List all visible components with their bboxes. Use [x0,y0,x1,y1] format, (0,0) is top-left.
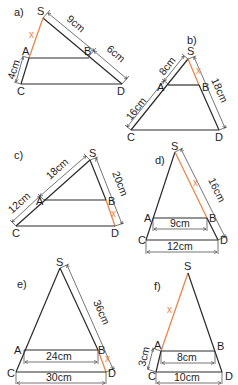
figure-a: a) S A B C D x 9cm 6cm 4cm [4,5,129,97]
unknown-x-label: x [167,304,172,315]
figure-label: a) [14,6,24,18]
unknown-x-label: x [196,65,201,76]
line-AC [156,351,161,372]
measure-SA: 8cm [156,54,178,77]
figure-f: f) S A B C D x 3cm 8cm 10cm [135,260,233,384]
line-AC [21,58,29,84]
segment-SB-unknown [175,152,207,218]
figure-d: d) S A B C D x 16cm 9cm 12cm [138,140,228,254]
line-SB [60,268,98,350]
measure-CD: 12cm [167,240,193,252]
point-B: B [209,212,216,224]
measure-AB: 9cm [170,217,190,229]
point-C: C [127,131,135,143]
point-A: A [36,195,44,207]
unknown-x-label: x [29,29,34,40]
measure-SD: 18cm [209,76,231,105]
point-B: B [202,81,209,93]
measure-AC: 12cm [5,189,32,215]
point-D: D [225,370,233,382]
figure-e: e) S A B C D x 36cm 24cm 30cm [7,256,116,384]
line-SB [90,160,106,200]
figure-label: f) [154,280,161,292]
point-C: C [7,367,15,379]
segment-SA-unknown [161,273,188,351]
figure-label: e) [17,278,27,290]
figure-label: c) [14,149,23,161]
point-S: S [56,256,63,268]
figure-b: b) S A B C D x 8cm 16cm 18cm [123,34,231,143]
point-D: D [220,234,228,246]
point-B: B [217,340,224,352]
point-A: A [22,45,30,57]
measure-BD: 6cm [105,42,128,64]
point-C: C [148,370,156,382]
point-D: D [117,85,125,97]
point-A: A [157,81,165,93]
point-B: B [84,45,91,57]
point-S: S [37,5,44,17]
point-S: S [184,260,191,272]
point-A: A [154,339,162,351]
measure-SD: 16cm [206,176,228,205]
measure-SB: 9cm [65,12,88,34]
point-D: D [108,367,116,379]
point-A: A [144,212,152,224]
measure-CD: 30cm [46,371,72,383]
point-C: C [12,227,20,239]
point-D: D [111,227,119,239]
point-S: S [171,140,178,152]
measure-AC: 4cm [4,58,22,81]
unknown-x-label: x [105,353,110,364]
figure-label: d) [155,154,165,166]
point-S: S [89,147,96,159]
point-A: A [14,344,22,356]
intercept-theorem-diagram: a) S A B C D x 9cm 6cm 4cm b) [0,0,238,385]
measure-AC: 16cm [123,94,148,122]
unknown-x-label: x [193,177,198,188]
measure-AB: 24cm [46,350,72,362]
measure-AB: 8cm [177,351,197,363]
measure-SD: 36cm [91,298,113,327]
measure-CD: 10cm [174,371,200,383]
unknown-x-label: x [111,208,116,219]
point-S: S [187,45,194,57]
point-D: D [215,131,223,143]
point-C: C [17,85,25,97]
point-B: B [108,195,115,207]
measure-SA: 18cm [43,155,70,181]
measure-SD: 20cm [110,169,131,198]
point-C: C [138,234,146,246]
figure-c: c) S A B C D x 18cm 12cm 20cm [5,147,131,239]
